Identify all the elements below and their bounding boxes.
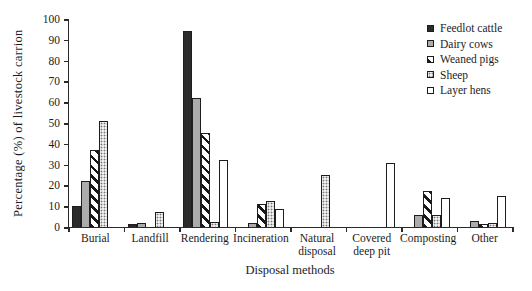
bar-sheep-burial [99, 121, 108, 227]
bar-weaned-pigs-rendering [201, 133, 210, 227]
x-axis-category-label-rendering: Rendering [177, 232, 232, 257]
bar-sheep-incineration [266, 201, 275, 227]
x-axis-category-label-other: Other [457, 232, 512, 257]
x-axis-category-label-composting: Composting [399, 232, 457, 257]
legend-marker-dairy-cows [427, 40, 434, 47]
legend: Feedlot cattleDairy cowsWeaned pigsSheep… [427, 22, 502, 96]
bar-feedlot-cattle-landfill [128, 224, 137, 227]
y-axis-tick [64, 144, 69, 146]
bar-group-covered-deep-pit [347, 19, 403, 227]
bar-dairy-cows-composting [414, 215, 423, 227]
y-axis-tick-label: 20 [30, 180, 60, 191]
y-axis-tick [64, 102, 69, 104]
y-axis-tick [64, 40, 69, 42]
bar-dairy-cows-burial [81, 181, 90, 227]
y-axis-tick-label: 80 [30, 56, 60, 67]
legend-item-weaned-pigs: Weaned pigs [427, 53, 502, 65]
y-axis-tick-label: 30 [30, 160, 60, 171]
bar-layer-hens-other [497, 196, 506, 227]
legend-item-feedlot-cattle: Feedlot cattle [427, 22, 502, 34]
y-axis-tick [64, 81, 69, 83]
x-axis-title: Disposal methods [68, 263, 512, 278]
x-axis-category-label-incineration: Incineration [232, 232, 290, 257]
y-axis-tick-label: 100 [30, 14, 60, 25]
bar-dairy-cows-rendering [192, 98, 201, 227]
bar-sheep-natural-disposal [321, 175, 330, 227]
bar-layer-hens-incineration [275, 209, 284, 227]
legend-label-weaned-pigs: Weaned pigs [440, 53, 499, 65]
bar-chart-figure: Percentage (%) of livestock carrion 0102… [0, 0, 532, 291]
x-axis-category-label-burial: Burial [68, 232, 123, 257]
legend-item-dairy-cows: Dairy cows [427, 38, 502, 50]
y-axis-title: Percentage (%) of livestock carrion [10, 19, 26, 227]
y-axis-tick [64, 206, 69, 208]
legend-marker-weaned-pigs [427, 56, 434, 63]
x-axis-category-label-covered-deep-pit: Covered deep pit [344, 232, 399, 257]
y-axis-tick-label: 90 [30, 35, 60, 46]
legend-item-sheep: Sheep [427, 69, 502, 81]
bar-dairy-cows-incineration [248, 223, 257, 227]
y-axis-tick-label: 60 [30, 97, 60, 108]
bar-sheep-other [488, 223, 497, 227]
bar-weaned-pigs-composting [423, 191, 432, 227]
y-axis-tick-label: 70 [30, 76, 60, 87]
legend-label-sheep: Sheep [440, 69, 468, 81]
bar-sheep-composting [432, 215, 441, 227]
y-axis-tick [64, 19, 69, 21]
bar-layer-hens-covered-deep-pit [386, 163, 395, 227]
y-axis-tick [64, 185, 69, 187]
x-axis-category-label-natural-disposal: Natural disposal [290, 232, 345, 257]
x-axis-category-labels: BurialLandfillRenderingIncinerationNatur… [68, 232, 512, 257]
y-axis-tick-label: 40 [30, 139, 60, 150]
legend-marker-sheep [427, 71, 434, 78]
legend-item-layer-hens: Layer hens [427, 84, 502, 96]
bar-sheep-rendering [210, 222, 219, 227]
bar-feedlot-cattle-burial [72, 206, 81, 227]
bar-group-burial [69, 19, 125, 227]
legend-label-feedlot-cattle: Feedlot cattle [440, 22, 502, 34]
y-axis-tick-label: 50 [30, 118, 60, 129]
bar-layer-hens-rendering [219, 160, 228, 227]
bar-group-incineration [236, 19, 292, 227]
x-axis-tick [512, 227, 514, 232]
y-axis-tick-label: 0 [30, 222, 60, 233]
bar-weaned-pigs-other [479, 224, 488, 227]
legend-label-dairy-cows: Dairy cows [440, 38, 493, 50]
bar-sheep-landfill [155, 212, 164, 227]
x-axis-category-label-landfill: Landfill [123, 232, 178, 257]
legend-marker-feedlot-cattle [427, 25, 434, 32]
bar-group-landfill [125, 19, 181, 227]
bar-weaned-pigs-burial [90, 150, 99, 227]
bar-group-natural-disposal [291, 19, 347, 227]
legend-label-layer-hens: Layer hens [440, 84, 491, 96]
bar-weaned-pigs-incineration [257, 204, 266, 227]
y-axis-tick [64, 165, 69, 167]
bar-group-rendering [180, 19, 236, 227]
y-axis-tick [64, 123, 69, 125]
legend-marker-layer-hens [427, 87, 434, 94]
y-axis-tick-label: 10 [30, 201, 60, 212]
bar-feedlot-cattle-rendering [183, 31, 192, 227]
y-axis-tick [64, 61, 69, 63]
bar-layer-hens-composting [441, 198, 450, 227]
bar-dairy-cows-landfill [137, 223, 146, 227]
bar-dairy-cows-other [470, 221, 479, 227]
